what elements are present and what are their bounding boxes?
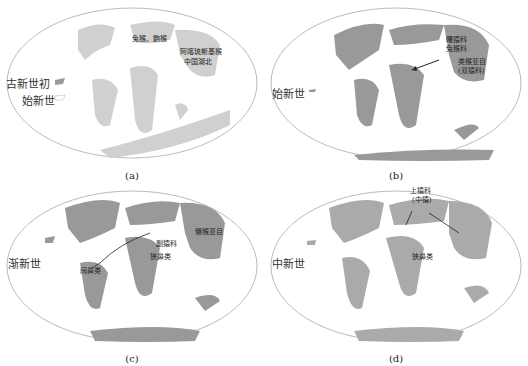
panel-caption: (c) bbox=[0, 353, 264, 364]
epoch-label-early-paleocene: 古新世初 bbox=[6, 75, 50, 91]
epoch-label-eocene: 始新世 bbox=[272, 85, 305, 101]
taxon-label: 副猿科 bbox=[156, 240, 177, 248]
panel-caption: (a) bbox=[0, 170, 264, 181]
taxon-label: 类猴亚目 bbox=[458, 58, 486, 66]
taxon-label: 狭鼻类 bbox=[150, 253, 171, 261]
epoch-label-miocene: 中新世 bbox=[272, 255, 305, 271]
taxon-label: 懒猴亚目 bbox=[195, 228, 223, 236]
fossil-label: 兔猴、鼩猴 bbox=[132, 35, 167, 43]
panel-b: 始新世 曙猿科 兔猴科 类猴亚目 (双猿科) (b) bbox=[264, 0, 528, 183]
world-map-eocene bbox=[264, 0, 528, 165]
taxon-label: 兔猴科 bbox=[446, 45, 467, 53]
panel-caption: (b) bbox=[264, 170, 528, 181]
taxon-label: 阔鼻类 bbox=[80, 267, 101, 275]
panel-d: 中新世 上猿科 (中猿) 狭鼻类 (d) bbox=[264, 183, 528, 366]
taxon-label: 狭鼻类 bbox=[412, 253, 433, 261]
location-label: 中国湖北 bbox=[184, 58, 212, 66]
epoch-label-oligocene: 渐新世 bbox=[8, 255, 41, 271]
epoch-label-eocene: 始新世 bbox=[22, 92, 55, 108]
taxon-label: (中猿) bbox=[412, 196, 431, 204]
panel-c: 渐新世 懒猴亚目 副猿科 狭鼻类 阔鼻类 (c) bbox=[0, 183, 264, 366]
panel-a: 古新世初 始新世 兔猴、鼩猴 阿喀琉斯基猴 中国湖北 (a) bbox=[0, 0, 264, 183]
panel-caption: (d) bbox=[264, 353, 528, 364]
taxon-label: 曙猿科 bbox=[446, 36, 467, 44]
taxon-label: 上猿科 bbox=[410, 187, 431, 195]
fossil-label: 阿喀琉斯基猴 bbox=[180, 48, 222, 56]
taxon-label: (双猿科) bbox=[458, 67, 484, 75]
